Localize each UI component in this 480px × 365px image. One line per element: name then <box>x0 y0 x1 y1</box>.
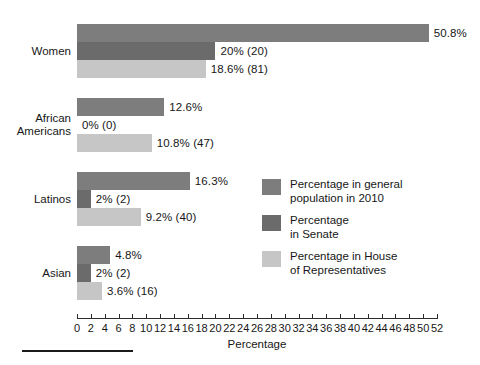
x-axis-tick-label: 26 <box>251 322 263 334</box>
x-axis-tick <box>285 314 286 319</box>
x-axis-tick <box>312 314 313 319</box>
bar-value-label: 3.6% (16) <box>107 285 158 297</box>
x-axis-tick-label: 22 <box>223 322 235 334</box>
x-axis-tick-label: 46 <box>389 322 401 334</box>
legend-item: Percentage in general population in 2010 <box>262 178 472 205</box>
x-axis-tick <box>395 314 396 319</box>
x-axis-tick-label: 24 <box>237 322 249 334</box>
x-axis-tick-label: 44 <box>375 322 387 334</box>
x-axis-tick-label: 8 <box>129 322 135 334</box>
legend-item: Percentage in Senate <box>262 214 472 241</box>
category-label: Women <box>0 45 71 58</box>
x-axis-tick <box>243 314 244 319</box>
category-label: African Americans <box>0 112 71 138</box>
x-axis-tick <box>174 314 175 319</box>
category-label-column: WomenAfrican AmericansLatinosAsian <box>0 18 71 318</box>
bar-value-label: 2% (2) <box>96 267 130 279</box>
legend-swatch <box>262 251 281 267</box>
bar-value-label: 10.8% (47) <box>157 137 214 149</box>
x-axis-tick <box>340 314 341 319</box>
x-axis-tick-label: 36 <box>320 322 332 334</box>
x-axis-tick <box>77 314 78 319</box>
legend-swatch <box>262 179 281 195</box>
x-axis-tick-label: 4 <box>102 322 108 334</box>
bar-value-label: 50.8% <box>434 27 467 39</box>
x-axis-tick-label: 18 <box>195 322 207 334</box>
x-axis-tick <box>229 314 230 319</box>
bar <box>77 24 429 42</box>
x-axis-tick <box>354 314 355 319</box>
legend: Percentage in general population in 2010… <box>262 178 472 286</box>
x-axis-tick-label: 14 <box>168 322 180 334</box>
footnote-rule <box>22 350 133 352</box>
x-axis-tick <box>257 314 258 319</box>
bar-value-label: 20% (20) <box>220 45 267 57</box>
category-label: Asian <box>0 267 71 280</box>
x-axis <box>77 318 437 319</box>
x-axis-tick-label: 30 <box>279 322 291 334</box>
x-axis-tick <box>132 314 133 319</box>
legend-label: Percentage in general population in 2010 <box>290 178 472 205</box>
bar-value-label: 16.3% <box>195 175 228 187</box>
bar-value-label: 9.2% (40) <box>146 211 197 223</box>
bar <box>77 60 206 78</box>
bar <box>77 282 102 300</box>
x-axis-tick-label: 10 <box>140 322 152 334</box>
x-axis-tick <box>423 314 424 319</box>
bar-value-label: 2% (2) <box>96 193 130 205</box>
x-axis-tick <box>105 314 106 319</box>
x-axis-tick <box>119 314 120 319</box>
x-axis-tick-label: 0 <box>74 322 80 334</box>
bar-chart: WomenAfrican AmericansLatinosAsian 50.8%… <box>0 0 480 365</box>
bar-value-label: 0% (0) <box>82 119 116 131</box>
x-axis-tick <box>437 314 438 319</box>
x-axis-tick-label: 28 <box>265 322 277 334</box>
bar <box>77 190 91 208</box>
x-axis-tick-label: 48 <box>403 322 415 334</box>
bar <box>77 264 91 282</box>
x-axis-tick-label: 6 <box>115 322 121 334</box>
bar-value-label: 12.6% <box>169 101 202 113</box>
x-axis-title: Percentage <box>77 338 437 350</box>
x-axis-tick <box>326 314 327 319</box>
bar <box>77 42 215 60</box>
x-axis-tick <box>271 314 272 319</box>
x-axis-tick <box>215 314 216 319</box>
legend-item: Percentage in House of Representatives <box>262 250 472 277</box>
x-axis-tick <box>202 314 203 319</box>
x-axis-tick <box>409 314 410 319</box>
legend-label: Percentage in House of Representatives <box>290 250 472 277</box>
x-axis-tick-label: 40 <box>348 322 360 334</box>
x-axis-tick <box>188 314 189 319</box>
x-axis-tick-label: 32 <box>292 322 304 334</box>
x-axis-tick-label: 34 <box>306 322 318 334</box>
x-axis-tick <box>368 314 369 319</box>
legend-swatch <box>262 215 281 231</box>
x-axis-tick <box>299 314 300 319</box>
x-axis-tick-label: 52 <box>431 322 443 334</box>
bar <box>77 208 141 226</box>
bar <box>77 172 190 190</box>
x-axis-tick-label: 50 <box>417 322 429 334</box>
bar-value-label: 4.8% <box>115 249 142 261</box>
x-axis-tick <box>160 314 161 319</box>
x-axis-tick <box>146 314 147 319</box>
bar <box>77 98 164 116</box>
x-axis-tick <box>382 314 383 319</box>
bar <box>77 246 110 264</box>
x-axis-tick-label: 2 <box>88 322 94 334</box>
x-axis-tick-label: 12 <box>154 322 166 334</box>
x-axis-tick-label: 20 <box>209 322 221 334</box>
legend-label: Percentage in Senate <box>290 214 472 241</box>
x-axis-tick <box>91 314 92 319</box>
x-axis-tick-label: 38 <box>334 322 346 334</box>
category-label: Latinos <box>0 193 71 206</box>
bar <box>77 134 152 152</box>
x-axis-tick-label: 16 <box>182 322 194 334</box>
x-axis-tick-label: 42 <box>362 322 374 334</box>
bar-value-label: 18.6% (81) <box>211 63 268 75</box>
